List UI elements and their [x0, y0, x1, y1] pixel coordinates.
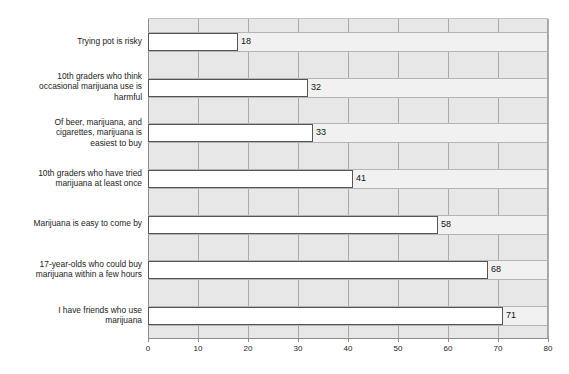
y-gridline — [148, 188, 547, 189]
bar[interactable] — [148, 216, 438, 234]
y-gridline — [148, 279, 547, 280]
x-gridline — [548, 19, 549, 338]
bar-value-label: 33 — [316, 127, 326, 137]
x-axis-tick — [148, 338, 149, 342]
bar[interactable] — [148, 33, 238, 51]
x-axis-tick — [348, 338, 349, 342]
x-axis-tick — [198, 338, 199, 342]
category-label: Of beer, marijuana, andcigarettes, marij… — [4, 117, 142, 149]
category-label-line: marijuana — [4, 315, 142, 326]
category-label: Marijuana is easy to come by — [4, 218, 142, 229]
x-axis-tick — [298, 338, 299, 342]
bar[interactable] — [148, 170, 353, 188]
category-label: 17-year-olds who could buymarijuana with… — [4, 259, 142, 280]
y-gridline — [148, 51, 547, 52]
category-label-line: marijuana at least once — [4, 178, 142, 189]
category-label-line: 17-year-olds who could buy — [4, 259, 142, 270]
category-label-line: easiest to buy — [4, 138, 142, 149]
bar-chart: Trying pot is risky10th graders who thin… — [0, 0, 569, 374]
bar[interactable] — [148, 307, 503, 325]
plot-area — [148, 18, 548, 338]
y-gridline — [148, 325, 547, 326]
category-label-line: 10th graders who think — [4, 71, 142, 82]
x-axis-tick-label: 30 — [294, 344, 303, 353]
category-label-line: Marijuana is easy to come by — [4, 218, 142, 229]
category-label-line: occasional marijuana use is — [4, 81, 142, 92]
bar[interactable] — [148, 79, 308, 97]
bar-value-label: 71 — [506, 310, 516, 320]
x-axis-tick — [498, 338, 499, 342]
x-axis-tick — [398, 338, 399, 342]
bar-value-label: 68 — [491, 264, 501, 274]
category-label: 10th graders who have triedmarijuana at … — [4, 168, 142, 189]
bar[interactable] — [148, 124, 313, 142]
category-label-line: Of beer, marijuana, and — [4, 117, 142, 128]
x-axis-tick — [448, 338, 449, 342]
x-axis-tick-label: 40 — [344, 344, 353, 353]
category-label: Trying pot is risky — [4, 36, 142, 47]
x-axis-tick-label: 70 — [494, 344, 503, 353]
bar-value-label: 18 — [241, 36, 251, 46]
bar-value-label: 32 — [311, 82, 321, 92]
category-label: I have friends who usemarijuana — [4, 305, 142, 326]
x-axis-tick-label: 20 — [244, 344, 253, 353]
category-label-line: harmful — [4, 92, 142, 103]
x-axis-tick-label: 10 — [194, 344, 203, 353]
x-axis-tick-label: 80 — [544, 344, 553, 353]
category-label-line: I have friends who use — [4, 305, 142, 316]
category-label-line: Trying pot is risky — [4, 36, 142, 47]
category-label-line: marijuana within a few hours — [4, 269, 142, 280]
category-label-line: cigarettes, marijuana is — [4, 127, 142, 138]
bar[interactable] — [148, 261, 488, 279]
x-axis-tick-label: 60 — [444, 344, 453, 353]
y-gridline — [148, 142, 547, 143]
x-axis-tick — [548, 338, 549, 342]
y-gridline — [148, 97, 547, 98]
x-axis-tick — [248, 338, 249, 342]
x-axis-tick-label: 50 — [394, 344, 403, 353]
bar-value-label: 58 — [441, 219, 451, 229]
bar-value-label: 41 — [356, 173, 366, 183]
category-label-line: 10th graders who have tried — [4, 168, 142, 179]
category-label: 10th graders who thinkoccasional marijua… — [4, 71, 142, 103]
y-gridline — [148, 234, 547, 235]
x-axis-tick-label: 0 — [146, 344, 150, 353]
